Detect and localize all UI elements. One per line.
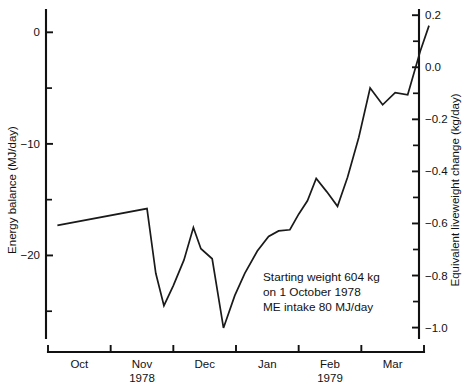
right-axis-tick-label: −0.2	[425, 113, 448, 125]
right-axis-tick-label: −0.4	[425, 165, 448, 177]
annotation-line-2: on 1 October 1978	[263, 285, 361, 299]
chart-background	[0, 0, 474, 389]
x-axis-month-label: Nov	[132, 358, 153, 370]
x-axis-month-label: Feb	[320, 358, 340, 370]
left-axis-tick-label: −10	[20, 138, 40, 150]
left-axis-tick-label: −20	[20, 249, 40, 261]
left-axis-tick-label: 0	[34, 26, 40, 38]
x-axis-year-label: 1979	[317, 372, 343, 384]
x-axis-year-label: 1978	[129, 372, 155, 384]
x-axis-month-label: Mar	[383, 358, 403, 370]
left-axis-title: Energy balance (MJ/day)	[6, 126, 18, 254]
right-axis-tick-label: −0.6	[425, 217, 448, 229]
right-axis-tick-label: −1.0	[425, 322, 448, 334]
annotation-line-1: Starting weight 604 kg	[263, 270, 380, 284]
x-axis-month-label: Oct	[70, 358, 89, 370]
right-axis-title: Equivalent liveweight change (kg/day)	[449, 93, 461, 286]
right-axis-tick-label: 0.0	[425, 61, 441, 73]
chart-figure: 0−10−20 0.20.0−0.2−0.4−0.6−0.8−1.0 OctNo…	[0, 0, 474, 389]
annotation-line-3: ME intake 80 MJ/day	[263, 300, 373, 314]
x-axis-month-label: Dec	[194, 358, 215, 370]
right-axis-tick-label: 0.2	[425, 9, 441, 21]
energy-balance-line-chart: 0−10−20 0.20.0−0.2−0.4−0.6−0.8−1.0 OctNo…	[0, 0, 474, 389]
right-axis-tick-label: −0.8	[425, 270, 448, 282]
x-axis-month-label: Jan	[258, 358, 277, 370]
